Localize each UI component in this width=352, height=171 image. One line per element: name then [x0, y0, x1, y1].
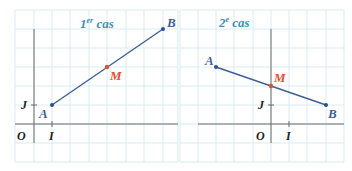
label-b-left: B — [166, 15, 176, 30]
point-a-left — [50, 103, 54, 107]
label-m-right: M — [273, 70, 286, 85]
label-a-right: A — [204, 53, 214, 68]
point-a-right — [214, 65, 218, 69]
label-o-right: O — [256, 129, 265, 143]
label-b-right: B — [327, 106, 337, 121]
point-b-left — [161, 27, 165, 31]
label-o-left: O — [17, 129, 26, 143]
label-j-left: J — [20, 98, 28, 112]
label-j-right: J — [257, 98, 265, 112]
point-m-left — [105, 65, 109, 69]
diagram-canvas: 1er cas B M A J O I 2e cas A M B J O I — [0, 0, 352, 171]
grid-left — [15, 10, 178, 162]
title-left: 1er cas — [80, 16, 114, 31]
label-a-left: A — [38, 106, 48, 121]
title-right: 2e cas — [218, 15, 250, 30]
label-m-left: M — [109, 68, 122, 83]
label-i-left: I — [48, 129, 55, 143]
label-i-right: I — [285, 129, 292, 143]
point-m-right — [269, 84, 273, 88]
